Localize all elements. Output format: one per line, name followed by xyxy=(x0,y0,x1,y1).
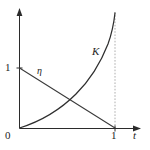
plot-canvas xyxy=(0,0,150,150)
graph-figure: 0 1 1 t K η xyxy=(0,0,150,150)
curve-label-eta: η xyxy=(37,66,42,76)
axis-label-origin: 0 xyxy=(5,130,11,141)
curve-label-k: K xyxy=(92,46,99,57)
y-axis-arrowhead xyxy=(17,8,23,16)
curve-k-path xyxy=(20,13,116,128)
y-axis-label-one: 1 xyxy=(5,62,11,73)
x-axis-label-one: 1 xyxy=(111,130,117,141)
x-axis-variable-label: t xyxy=(133,130,136,141)
curve-eta-path xyxy=(20,68,116,128)
